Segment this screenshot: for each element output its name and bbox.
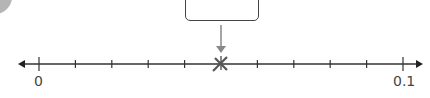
label-end: 0.1 xyxy=(393,73,415,89)
pointer-arrow-head-icon xyxy=(216,46,226,53)
right-arrowhead-icon xyxy=(416,60,423,68)
number-line xyxy=(0,0,430,98)
label-start: 0 xyxy=(34,73,43,89)
left-arrowhead-icon xyxy=(18,60,25,68)
